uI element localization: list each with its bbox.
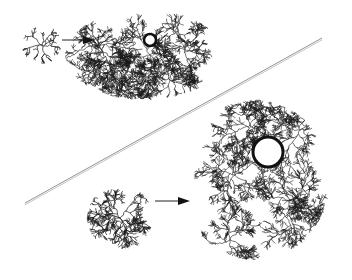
bottom-target-circle — [253, 137, 283, 167]
bottom-seed-cluster — [87, 189, 151, 249]
top-target-circle — [144, 34, 156, 46]
bottom-arrow-icon — [155, 197, 190, 205]
top-grown-cluster — [65, 14, 212, 100]
top-seed-cluster — [23, 27, 61, 64]
dla-figure — [0, 0, 352, 280]
bottom-grown-cluster — [194, 100, 328, 259]
